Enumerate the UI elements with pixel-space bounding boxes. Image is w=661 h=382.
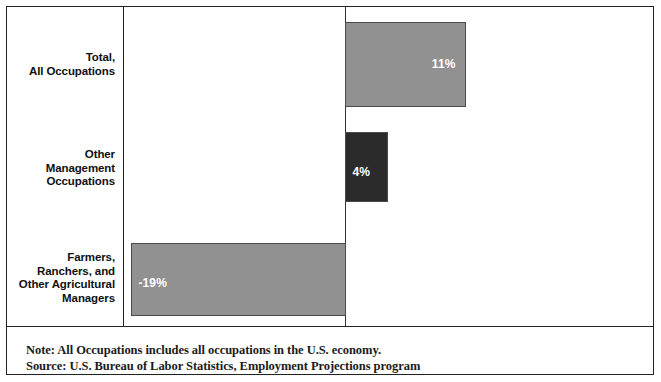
footnote-block: Note: All Occupations includes all occup… <box>7 329 653 374</box>
bar-total-all-occupations[interactable]: 11% <box>345 22 466 107</box>
bar-other-management-occupations[interactable]: 4% <box>345 132 388 202</box>
footnote-note: Note: All Occupations includes all occup… <box>26 343 653 359</box>
bars-canvas: 11% 4% -19% <box>126 7 654 327</box>
bar-value-label: 11% <box>432 58 456 70</box>
plot-bottom-border <box>7 326 653 327</box>
category-label-line: Occupations <box>6 175 115 189</box>
category-label-gutter: Total, All Occupations Other Management … <box>7 7 124 327</box>
bar-farmers-ranchers-agricultural-managers[interactable]: -19% <box>131 243 346 316</box>
category-label-line: All Occupations <box>6 65 115 79</box>
chart-figure: Total, All Occupations Other Management … <box>6 6 654 375</box>
category-label-line: Ranchers, and <box>6 265 115 279</box>
plot-area: Total, All Occupations Other Management … <box>7 7 653 327</box>
category-label-other-management-occupations: Other Management Occupations <box>6 148 115 189</box>
category-label-line: Total, <box>6 51 115 65</box>
category-label-line: Other <box>6 148 115 162</box>
category-label-line: Managers <box>6 292 115 306</box>
category-label-line: Other Agricultural <box>6 278 115 292</box>
category-label-farmers-ranchers-agricultural-managers: Farmers, Ranchers, and Other Agricultura… <box>6 251 115 305</box>
footnote-source: Source: U.S. Bureau of Labor Statistics,… <box>26 359 653 375</box>
category-label-line: Management <box>6 162 115 176</box>
category-label-total-all-occupations: Total, All Occupations <box>6 51 115 78</box>
bar-value-label: -19% <box>139 277 167 289</box>
bar-value-label: 4% <box>353 166 371 178</box>
category-label-line: Farmers, <box>6 251 115 265</box>
